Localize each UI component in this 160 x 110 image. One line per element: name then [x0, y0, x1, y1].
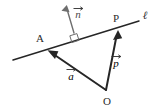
vector-p-label-group: p: [112, 55, 121, 69]
point-label-o: O: [103, 95, 111, 107]
vector-a-shaft: [53, 54, 107, 91]
vector-a-arrowhead: [48, 50, 59, 59]
vector-n-shaft: [67, 9, 74, 34]
point-label-p: P: [113, 12, 119, 24]
vector-a-label: a: [68, 70, 74, 82]
vector-n-arrowhead: [61, 4, 71, 13]
vector-n-label-group: n: [74, 7, 83, 20]
vector-n-group: [61, 4, 74, 33]
line-l-group: [13, 21, 139, 60]
vector-diagram-figure: A P O ℓ a p n: [0, 0, 160, 110]
vector-a-group: [48, 50, 107, 90]
vector-p-arrowhead: [113, 30, 122, 40]
line-l: [13, 21, 139, 60]
vector-p-label: p: [112, 57, 119, 69]
diagram-canvas: A P O ℓ a p n: [0, 0, 160, 110]
point-label-a: A: [36, 32, 44, 44]
vector-a-label-group: a: [67, 68, 76, 82]
line-label-l: ℓ: [143, 9, 148, 21]
